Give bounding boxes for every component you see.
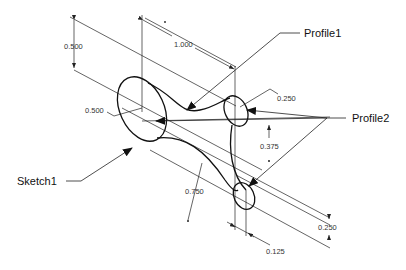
dim-label: 0.250 (277, 94, 296, 103)
sweep-curves (148, 83, 246, 191)
small-ellipse-bottom (229, 179, 259, 213)
small-ellipse-top (219, 92, 252, 130)
callout-sketch1: Sketch1 (17, 148, 132, 187)
dimension-0250-top: 0.250 (240, 89, 296, 107)
dimension-0375: 0.375 (260, 125, 279, 162)
callout-label-profile2: Profile2 (352, 112, 389, 124)
callout-profile1: Profile1 (187, 27, 341, 110)
dim-label: 0.250 (318, 223, 337, 232)
callout-label-profile1: Profile1 (304, 27, 341, 39)
dim-label: 0.500 (64, 42, 83, 51)
dimension-1000: 1.000 (143, 20, 234, 69)
cad-drawing: 0.500 1.000 0.500 0.250 0.375 0.750 (0, 0, 406, 270)
dimension-0500-vertical: 0.500 (64, 20, 83, 68)
dim-label: 0.375 (260, 142, 279, 151)
dim-label: 1.000 (174, 40, 193, 49)
dimension-0750: 0.750 (185, 163, 204, 222)
dim-label: 0.500 (85, 106, 104, 115)
dim-label: 0.750 (185, 187, 204, 196)
construction-lines (70, 15, 330, 248)
dimension-0125: 0.125 (227, 222, 285, 256)
dim-label: 0.125 (266, 247, 285, 256)
dimension-0250-right: 0.250 (318, 214, 337, 240)
dimension-0500-radius: 0.500 (85, 106, 142, 116)
callout-label-sketch1: Sketch1 (17, 175, 57, 187)
